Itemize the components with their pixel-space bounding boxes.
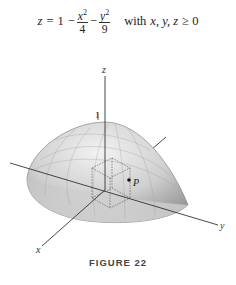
- point-p-label: P: [132, 177, 139, 188]
- paraboloid-diagram: z 1 y x P: [0, 0, 236, 285]
- z-tick-label: 1: [95, 110, 100, 120]
- point-p: [127, 178, 131, 182]
- axis-x-label: x: [35, 244, 41, 255]
- axis-z-label: z: [101, 64, 106, 75]
- figure-caption: FIGURE 22: [0, 257, 236, 268]
- axis-y-label: y: [219, 220, 225, 231]
